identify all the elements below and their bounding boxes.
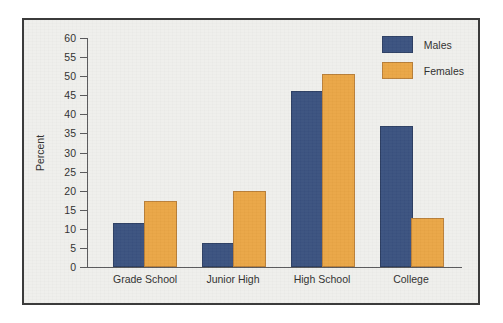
- y-tick-label: 60: [64, 32, 76, 44]
- bar-females[interactable]: [322, 74, 355, 267]
- x-axis-line: [87, 267, 462, 268]
- y-tick-label: 45: [64, 89, 76, 101]
- x-tick-label: College: [380, 273, 442, 285]
- bar-group: Grade School: [113, 38, 175, 267]
- y-axis-title: Percent: [34, 134, 46, 170]
- y-tick-label: 30: [64, 147, 76, 159]
- y-axis-line: [87, 38, 88, 267]
- y-tick-mark: [80, 267, 87, 268]
- legend-label: Females: [424, 65, 464, 77]
- bar-females[interactable]: [411, 218, 444, 267]
- x-tick-label: Grade School: [113, 273, 175, 285]
- y-tick-mark: [80, 133, 87, 134]
- bar-males[interactable]: [113, 223, 146, 267]
- y-tick-mark: [80, 153, 87, 154]
- y-tick-mark: [80, 95, 87, 96]
- x-tick-label: Junior High: [202, 273, 264, 285]
- y-tick-mark: [80, 38, 87, 39]
- bar-males[interactable]: [202, 243, 235, 267]
- bar-females[interactable]: [233, 191, 266, 267]
- bar-group: Junior High: [202, 38, 264, 267]
- y-tick-mark: [80, 191, 87, 192]
- y-tick-mark: [80, 57, 87, 58]
- legend-swatch-males: [382, 36, 413, 53]
- y-tick-label: 55: [64, 51, 76, 63]
- y-tick-mark: [80, 210, 87, 211]
- chart-figure: Percent 605550454035302520151050 Grade S…: [22, 18, 480, 305]
- y-tick-mark: [80, 229, 87, 230]
- legend-label: Males: [424, 39, 452, 51]
- legend-item-males[interactable]: Males: [382, 36, 464, 53]
- bar-females[interactable]: [144, 201, 177, 267]
- y-tick-label: 0: [70, 261, 76, 273]
- bar-males[interactable]: [380, 126, 413, 267]
- y-tick-mark: [80, 172, 87, 173]
- y-tick-label: 20: [64, 185, 76, 197]
- chart-legend: MalesFemales: [382, 36, 464, 88]
- y-tick-label: 40: [64, 108, 76, 120]
- y-tick-mark: [80, 248, 87, 249]
- bar-males[interactable]: [291, 91, 324, 267]
- legend-swatch-females: [382, 62, 413, 79]
- x-tick-label: High School: [291, 273, 353, 285]
- y-tick-label: 10: [64, 223, 76, 235]
- y-tick-mark: [80, 114, 87, 115]
- legend-item-females[interactable]: Females: [382, 62, 464, 79]
- y-tick-label: 5: [70, 242, 76, 254]
- y-tick-label: 50: [64, 70, 76, 82]
- y-tick-label: 35: [64, 127, 76, 139]
- y-tick-label: 25: [64, 166, 76, 178]
- y-tick-label: 15: [64, 204, 76, 216]
- bar-group: High School: [291, 38, 353, 267]
- y-tick-mark: [80, 76, 87, 77]
